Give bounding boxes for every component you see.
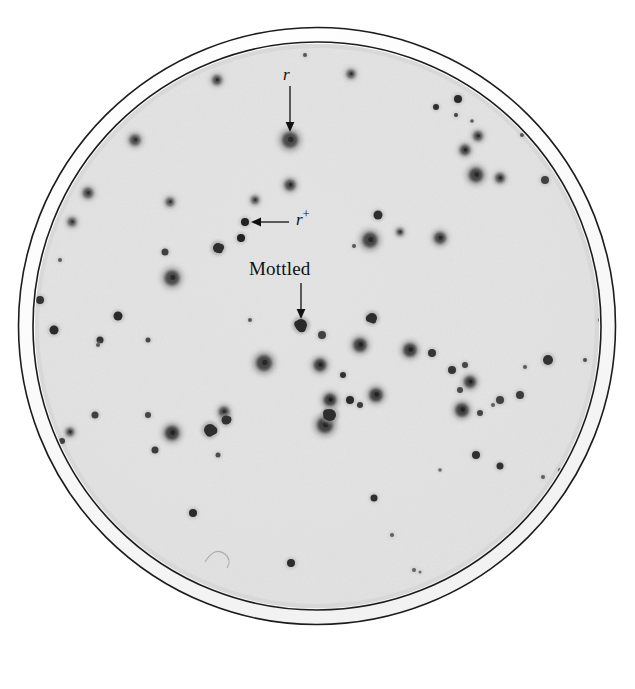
plaque xyxy=(490,402,496,408)
plaque xyxy=(164,196,177,209)
plaque xyxy=(389,532,395,538)
plaque xyxy=(321,406,339,424)
annotation-label-r-plus: r+ xyxy=(296,211,309,228)
plaque xyxy=(81,186,96,201)
plaque xyxy=(302,52,308,58)
annotation-label-r-plus-base: r xyxy=(296,210,303,229)
plaque xyxy=(411,567,417,573)
plaque xyxy=(285,557,297,569)
plaque xyxy=(90,410,100,420)
petri-dish-plate xyxy=(0,0,635,689)
plaque xyxy=(359,229,382,252)
plaque xyxy=(400,340,420,360)
plaque xyxy=(311,356,330,375)
plaque xyxy=(540,474,546,480)
plaque xyxy=(476,409,485,418)
plaque xyxy=(210,73,224,87)
plaque xyxy=(187,507,199,519)
plaque xyxy=(461,361,470,370)
plaque xyxy=(344,394,356,406)
plaque xyxy=(345,68,358,81)
plaque xyxy=(458,143,473,158)
plaque xyxy=(47,323,60,336)
annotation-label-mottled: Mottled xyxy=(249,259,311,278)
plaque xyxy=(201,421,219,439)
plaque xyxy=(495,461,505,471)
plaque xyxy=(350,335,370,355)
plaque xyxy=(453,112,459,118)
plaque xyxy=(452,93,464,105)
plaque xyxy=(470,449,482,461)
plaque xyxy=(418,570,422,574)
plaque xyxy=(66,216,79,229)
plaque xyxy=(426,347,438,359)
plaque xyxy=(247,317,253,323)
plaque xyxy=(432,103,441,112)
plaque xyxy=(316,329,328,341)
plaque xyxy=(95,342,101,348)
plaque xyxy=(493,171,507,185)
plaque xyxy=(161,267,184,290)
plaque xyxy=(369,493,379,503)
plaque xyxy=(582,357,588,363)
plaque xyxy=(219,413,233,427)
plaque xyxy=(211,241,226,256)
plaque xyxy=(144,411,153,420)
plaque xyxy=(366,385,386,405)
petri-dish-figure: r r+ Mottled xyxy=(0,0,635,689)
plaque xyxy=(365,311,380,326)
plaque xyxy=(214,451,221,458)
plaque xyxy=(161,422,182,443)
plaque xyxy=(371,208,384,221)
plaque xyxy=(522,364,528,370)
plaque xyxy=(446,364,458,376)
plaque xyxy=(239,216,251,228)
plaque xyxy=(465,164,486,185)
plaque xyxy=(111,309,124,322)
plaque xyxy=(351,243,357,249)
plaque xyxy=(235,232,247,244)
plaque xyxy=(282,177,298,193)
plaque xyxy=(514,389,526,401)
plaque xyxy=(471,129,485,143)
plaque xyxy=(539,174,551,186)
annotation-label-r: r xyxy=(283,66,290,83)
plaque xyxy=(469,118,474,123)
plaque xyxy=(356,401,365,410)
plaque xyxy=(150,445,160,455)
plaque xyxy=(249,194,260,205)
plaque xyxy=(431,229,449,247)
plaque xyxy=(541,353,556,368)
plaque xyxy=(494,394,506,406)
plaque xyxy=(127,132,143,148)
plaque xyxy=(437,467,442,472)
plaque xyxy=(456,386,465,395)
plaque xyxy=(144,336,151,343)
plaque xyxy=(57,257,63,263)
plaque xyxy=(395,227,405,237)
plaque xyxy=(160,247,170,257)
plaque xyxy=(452,400,472,420)
plaque xyxy=(252,351,276,375)
annotation-label-r-plus-superscript: + xyxy=(303,207,310,221)
plaque xyxy=(64,426,75,437)
plaque xyxy=(339,371,348,380)
